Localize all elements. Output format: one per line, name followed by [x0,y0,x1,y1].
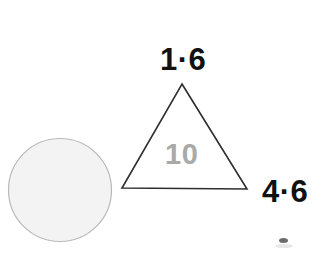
measured-triangle [122,84,247,189]
right-side-measurement-label: 4·6 [262,176,308,207]
figure-canvas: 1·6 4·6 10 [0,0,334,253]
top-side-measurement-label: 1·6 [160,44,206,75]
bottom-right-cutoff-mark-icon [279,238,288,243]
bottom-right-faint-mark [275,244,293,248]
triangle-inner-value-label: 10 [165,140,198,169]
shaded-circle [9,139,112,242]
figure-graphics [0,0,334,253]
